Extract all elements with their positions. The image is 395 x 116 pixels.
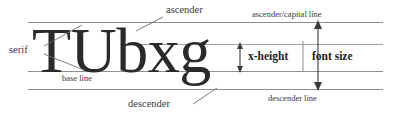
typography-anatomy-diagram: TUbxg ascender ascender/capital line ser…	[0, 0, 395, 116]
label-descender: descender	[128, 98, 170, 109]
descender-leader	[193, 88, 217, 104]
label-x-height: x-height	[248, 50, 288, 62]
label-descender-line: descender line	[268, 93, 317, 103]
label-ascender: ascender	[166, 4, 203, 15]
label-font-size: font size	[312, 50, 353, 62]
sample-letterforms: TUbxg	[32, 19, 211, 83]
descender-line-rule	[28, 89, 383, 90]
x-height-arrow	[237, 42, 243, 73]
label-serif: serif	[9, 44, 28, 55]
label-base-line: base line	[62, 73, 92, 83]
label-ascender-capital-line: ascender/capital line	[252, 9, 322, 19]
